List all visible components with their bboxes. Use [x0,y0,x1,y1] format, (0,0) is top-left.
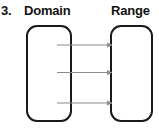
mapping-arrows-layer [0,0,159,131]
mapping-diagram: 3. Domain Range [0,0,159,131]
